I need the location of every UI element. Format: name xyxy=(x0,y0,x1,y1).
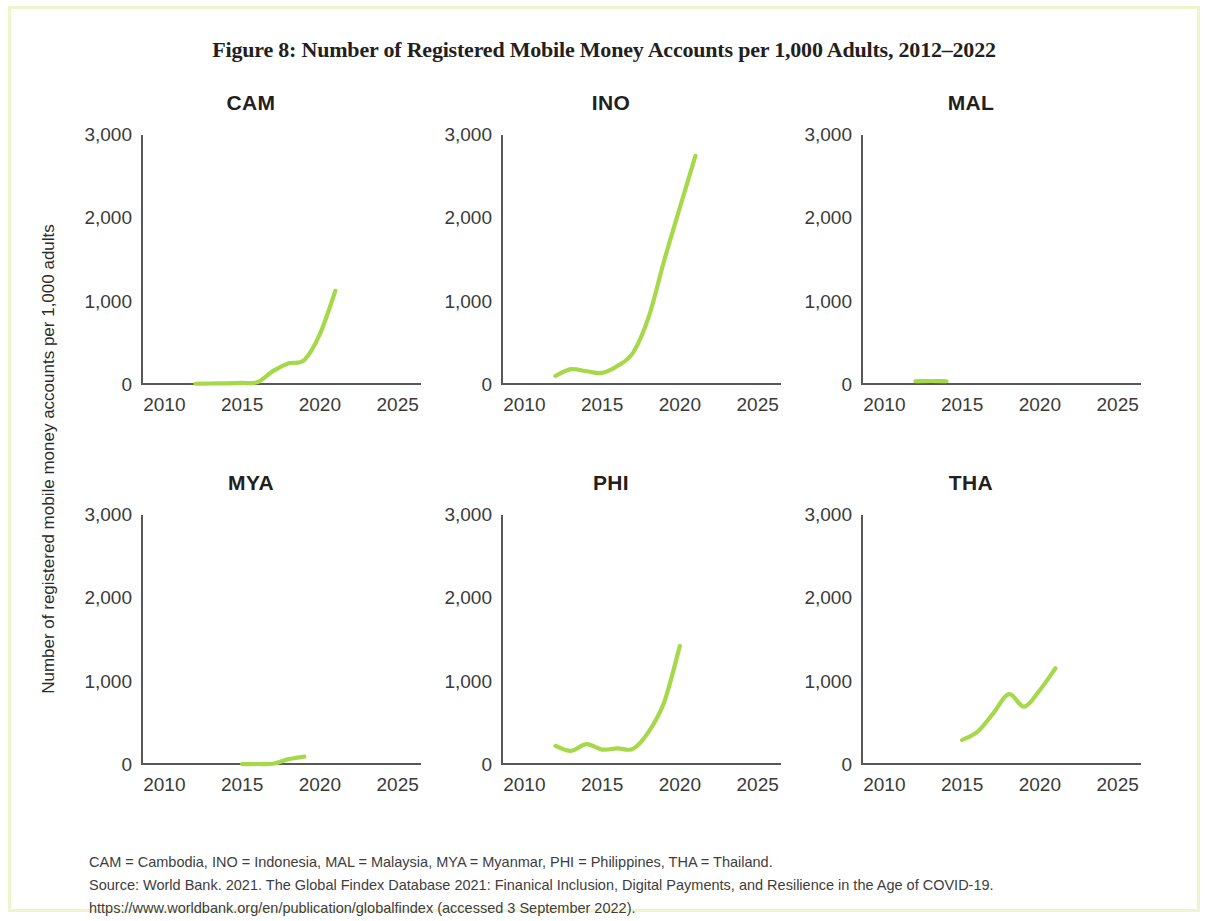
figure-frame: Figure 8: Number of Registered Mobile Mo… xyxy=(8,6,1200,912)
y-tick-label: 1,000 xyxy=(84,291,132,313)
series-path xyxy=(195,291,335,384)
panel-title-ino: INO xyxy=(431,91,791,115)
y-tick-label: 2,000 xyxy=(84,587,132,609)
plot-area-mya: 01,0002,0003,0002010201520202025 xyxy=(141,515,421,765)
x-tick-label: 2020 xyxy=(659,394,701,416)
series-path xyxy=(962,668,1055,740)
note-source: Source: World Bank. 2021. The Global Fin… xyxy=(89,874,1149,897)
note-abbreviations: CAM = Cambodia, INO = Indonesia, MAL = M… xyxy=(89,851,1149,874)
panel-title-cam: CAM xyxy=(71,91,431,115)
plot-area-mal: 01,0002,0003,0002010201520202025 xyxy=(861,135,1141,385)
x-tick-label: 2010 xyxy=(143,394,185,416)
y-tick-label: 3,000 xyxy=(84,124,132,146)
y-tick-label: 3,000 xyxy=(804,504,852,526)
y-tick-label: 0 xyxy=(841,374,852,396)
x-tick-label: 2025 xyxy=(1097,394,1139,416)
x-tick-label: 2015 xyxy=(941,774,983,796)
panel-cam: CAM01,0002,0003,0002010201520202025 xyxy=(71,91,431,391)
y-tick-label: 1,000 xyxy=(444,291,492,313)
y-tick-label: 2,000 xyxy=(804,587,852,609)
y-tick-label: 3,000 xyxy=(444,504,492,526)
y-tick-label: 3,000 xyxy=(804,124,852,146)
plot-area-ino: 01,0002,0003,0002010201520202025 xyxy=(501,135,781,385)
x-tick-label: 2015 xyxy=(581,394,623,416)
series-line-phi xyxy=(501,515,781,765)
plot-area-cam: 01,0002,0003,0002010201520202025 xyxy=(141,135,421,385)
x-tick-label: 2020 xyxy=(659,774,701,796)
y-tick-label: 0 xyxy=(841,754,852,776)
x-tick-label: 2010 xyxy=(503,774,545,796)
series-path xyxy=(555,646,679,751)
x-tick-label: 2025 xyxy=(737,774,779,796)
y-tick-label: 0 xyxy=(121,374,132,396)
panel-title-mya: MYA xyxy=(71,471,431,495)
series-line-mal xyxy=(861,135,1141,385)
x-tick-label: 2010 xyxy=(503,394,545,416)
x-tick-label: 2025 xyxy=(1097,774,1139,796)
x-tick-label: 2010 xyxy=(143,774,185,796)
panel-title-phi: PHI xyxy=(431,471,791,495)
y-tick-label: 3,000 xyxy=(84,504,132,526)
y-tick-label: 2,000 xyxy=(804,207,852,229)
y-tick-label: 2,000 xyxy=(84,207,132,229)
plot-area-phi: 01,0002,0003,0002010201520202025 xyxy=(501,515,781,765)
x-tick-label: 2010 xyxy=(863,394,905,416)
y-axis-label: Number of registered mobile money accoun… xyxy=(39,159,59,759)
x-tick-label: 2025 xyxy=(377,394,419,416)
figure-title: Figure 8: Number of Registered Mobile Mo… xyxy=(11,37,1197,63)
y-tick-label: 2,000 xyxy=(444,207,492,229)
plot-area-tha: 01,0002,0003,0002010201520202025 xyxy=(861,515,1141,765)
y-tick-label: 1,000 xyxy=(84,671,132,693)
x-tick-label: 2025 xyxy=(737,394,779,416)
x-tick-label: 2015 xyxy=(941,394,983,416)
figure-notes: CAM = Cambodia, INO = Indonesia, MAL = M… xyxy=(89,851,1149,920)
x-tick-label: 2015 xyxy=(221,394,263,416)
y-tick-label: 1,000 xyxy=(804,291,852,313)
series-line-ino xyxy=(501,135,781,385)
y-tick-label: 2,000 xyxy=(444,587,492,609)
series-line-cam xyxy=(141,135,421,385)
x-tick-label: 2020 xyxy=(299,774,341,796)
y-tick-label: 1,000 xyxy=(444,671,492,693)
x-tick-label: 2020 xyxy=(299,394,341,416)
y-tick-label: 0 xyxy=(481,374,492,396)
panel-mal: MAL01,0002,0003,0002010201520202025 xyxy=(791,91,1151,391)
x-tick-label: 2025 xyxy=(377,774,419,796)
series-line-mya xyxy=(141,515,421,765)
panel-ino: INO01,0002,0003,0002010201520202025 xyxy=(431,91,791,391)
y-tick-label: 3,000 xyxy=(444,124,492,146)
panel-phi: PHI01,0002,0003,0002010201520202025 xyxy=(431,471,791,771)
series-line-tha xyxy=(861,515,1141,765)
series-path xyxy=(555,156,695,376)
panel-title-mal: MAL xyxy=(791,91,1151,115)
y-tick-label: 0 xyxy=(481,754,492,776)
panel-mya: MYA01,0002,0003,0002010201520202025 xyxy=(71,471,431,771)
y-tick-label: 0 xyxy=(121,754,132,776)
x-tick-label: 2010 xyxy=(863,774,905,796)
x-tick-label: 2020 xyxy=(1019,394,1061,416)
x-tick-label: 2015 xyxy=(581,774,623,796)
x-tick-label: 2020 xyxy=(1019,774,1061,796)
note-url: https://www.worldbank.org/en/publication… xyxy=(89,897,1149,920)
series-path xyxy=(242,757,304,765)
panel-tha: THA01,0002,0003,0002010201520202025 xyxy=(791,471,1151,771)
panel-title-tha: THA xyxy=(791,471,1151,495)
y-tick-label: 1,000 xyxy=(804,671,852,693)
x-tick-label: 2015 xyxy=(221,774,263,796)
